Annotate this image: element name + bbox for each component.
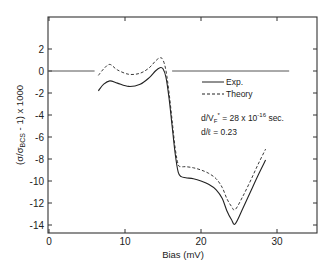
y-tick-label: -4 [35,110,44,121]
legend-entry-solid: Exp. [226,77,243,87]
y-tick-label: -14 [30,220,45,231]
y-tick-label: 2 [38,44,44,55]
annotation-velocity: d/VF* = 28 x 10-16 sec. [201,112,284,124]
x-axis-label: Bias (mV) [162,249,204,260]
y-tick-label: 0 [38,66,44,77]
x-tick-label: 20 [195,236,207,247]
chart: 010203020-2-4-6-8-10-12-14 Exp.Theoryd/V… [0,0,333,270]
y-tick-label: -6 [35,132,44,143]
y-tick-label: -10 [30,176,45,187]
y-axis-label: (σ/σBCS - 1) x 1000 [14,85,26,165]
y-tick-label: -12 [30,198,45,209]
legend-entry-dashed: Theory [226,89,253,99]
x-tick-label: 0 [46,236,52,247]
x-tick-label: 10 [119,236,131,247]
legend: Exp.Theoryd/VF* = 28 x 10-16 sec.d/ℓ = 0… [201,77,284,137]
x-tick-label: 30 [271,236,283,247]
plot-frame [48,17,317,233]
annotation-ratio: d/ℓ = 0.23 [201,127,237,137]
y-tick-label: -2 [35,88,44,99]
y-tick-label: -8 [35,154,44,165]
